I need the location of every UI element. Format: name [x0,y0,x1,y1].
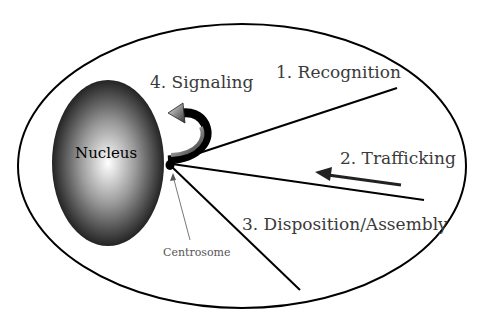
nucleus [52,80,164,246]
centrosome-pointer [173,176,190,240]
centrosome-label: Centrosome [163,246,231,259]
trafficking-arrow-icon [315,167,401,185]
step-disposition-label: 3. Disposition/Assembly [242,214,448,234]
step-recognition-label: 1. Recognition [276,62,401,82]
nucleus-label: Nucleus [75,144,137,162]
centrosome-pointer-head-icon [170,173,176,181]
step-signaling-label: 4. Signaling [150,72,253,92]
cell-diagram: Nucleus 1. Recognition 2. Trafficking 3.… [0,0,482,330]
step-trafficking-label: 2. Trafficking [340,148,456,168]
